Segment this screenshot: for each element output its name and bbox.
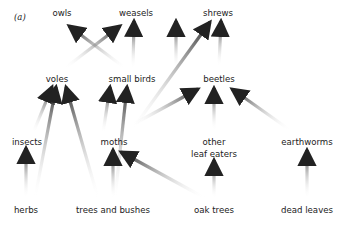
node-shrews: shrews [203,8,233,19]
node-trees-and-bushes: trees and bushes [76,205,150,216]
arrow-moths-to-small_birds [103,87,110,133]
node-beetles: beetles [203,74,235,85]
node-voles: voles [46,74,69,85]
node-moths: moths [101,137,128,148]
node-oak-trees: oak trees [194,205,234,216]
arrow-small_birds-to-owls [69,26,125,68]
arrow-beetles-to-shrews [219,21,221,66]
node-weasels: weasels [119,8,153,19]
arrow-moths-to-beetles [132,89,198,125]
arrow-small_birds-to-weasels [133,21,134,68]
node-small-birds: small birds [109,74,156,85]
arrow-earthworms-to-beetles [232,89,290,130]
node-insects: insects [12,137,42,148]
food-web-arrows [0,0,346,225]
node-other-leaf-eaters-line2: leaf eaters [191,149,237,160]
panel-label: (a) [14,12,26,22]
node-owls: owls [52,8,71,19]
node-dead-leaves: dead leaves [281,205,333,216]
arrow-trees_and_bushes-to-voles [66,87,98,198]
arrow-voles-to-weasels [65,26,120,68]
node-other-leaf-eaters-line1: other [203,137,226,148]
node-herbs: herbs [14,205,38,216]
node-earthworms: earthworms [281,137,332,148]
